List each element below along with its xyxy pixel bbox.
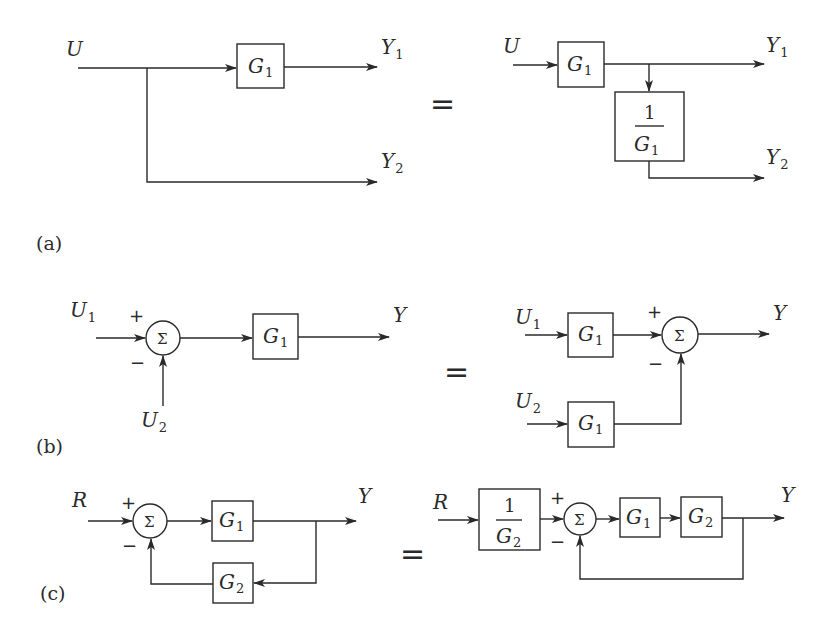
svg-text:Σ: Σ <box>674 327 685 345</box>
signal-y2-label: Y2 <box>766 145 788 172</box>
signal-y-label: Y <box>773 301 788 325</box>
signal-y1-label: Y1 <box>766 33 788 60</box>
block-g2: G2 <box>681 497 722 537</box>
signal-u2-label: U2 <box>515 389 541 416</box>
svg-text:Σ: Σ <box>157 330 168 348</box>
signal-y-label: Y <box>781 483 796 507</box>
summing-junction: Σ <box>146 321 180 355</box>
plus-sign: + <box>129 305 144 326</box>
panel-b-left: U1 Σ + − U2 G1 Y <box>70 298 408 435</box>
block-g1-bottom: G1 <box>568 402 614 447</box>
svg-text:Σ: Σ <box>144 513 155 531</box>
signal-u1-label: U1 <box>70 298 96 325</box>
signal-y1-label: Y1 <box>381 35 403 62</box>
minus-sign: − <box>550 531 565 552</box>
panel-label-a: (a) <box>36 232 62 254</box>
equals-sign-c: = <box>400 536 425 571</box>
panel-a-left: U G1 Y1 Y2 <box>66 35 403 182</box>
wire-g2-to-sum <box>151 539 213 584</box>
block-g2: G2 <box>213 563 253 603</box>
block-diagram-canvas: U G1 Y1 Y2 = U G1 1 G1 Y1 Y2 (a) <box>0 0 838 635</box>
minus-sign: − <box>122 535 137 556</box>
signal-u-label: U <box>66 37 84 61</box>
equals-sign-b: = <box>444 354 469 389</box>
minus-sign: − <box>130 352 145 373</box>
plus-sign: + <box>121 492 136 513</box>
plus-sign: + <box>550 487 565 508</box>
panel-label-c: (c) <box>40 582 65 604</box>
block-g1: G1 <box>253 314 298 359</box>
block-g1-top: G1 <box>568 313 613 357</box>
summing-junction: Σ <box>564 503 596 535</box>
minus-sign: − <box>648 353 663 374</box>
svg-text:Σ: Σ <box>574 511 585 529</box>
panel-a-right: U G1 1 G1 Y1 Y2 <box>503 33 788 178</box>
summing-junction: Σ <box>133 504 167 538</box>
panel-c-right: R 1 G2 Σ + − G1 G2 Y <box>432 483 796 579</box>
block-g1: G1 <box>620 498 660 537</box>
summing-junction: Σ <box>662 317 698 353</box>
svg-text:1: 1 <box>504 495 515 516</box>
signal-u-label: U <box>503 34 521 58</box>
panel-c-left: R Σ + − G1 Y G2 <box>71 484 373 603</box>
signal-u1-label: U1 <box>515 305 541 332</box>
equals-sign-a: = <box>430 86 455 121</box>
wire-feedback-to-g2 <box>254 521 316 583</box>
panel-label-b: (b) <box>36 435 63 457</box>
signal-r-label: R <box>432 490 448 514</box>
signal-y-label: Y <box>393 303 408 327</box>
block-inverse-g2: 1 G2 <box>479 489 540 550</box>
block-g1: G1 <box>237 44 284 88</box>
block-g1: G1 <box>558 42 604 87</box>
plus-sign: + <box>647 301 662 322</box>
panel-b-right: U1 G1 Σ + − Y U2 G1 <box>515 301 788 447</box>
signal-y-label: Y <box>358 484 373 508</box>
block-g1: G1 <box>212 501 253 541</box>
svg-text:1: 1 <box>644 102 655 123</box>
block-inverse-g1: 1 G1 <box>615 92 684 161</box>
signal-r-label: R <box>71 488 87 512</box>
signal-y2-label: Y2 <box>381 149 403 176</box>
signal-u2-label: U2 <box>141 408 167 435</box>
wire-inverse-to-y2 <box>649 161 764 178</box>
